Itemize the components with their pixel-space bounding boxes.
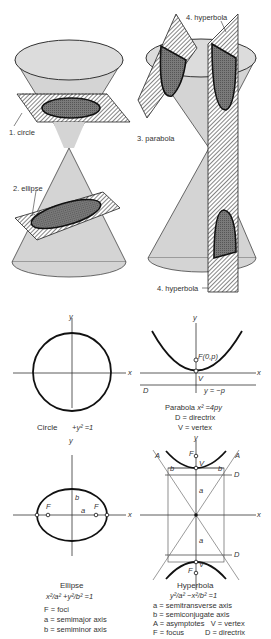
parabola-legend-vertex: V = vertex xyxy=(178,424,212,432)
hyperbola-a-label-bottom: a xyxy=(199,537,203,545)
parabola-axis-y: y xyxy=(193,314,197,322)
parabola-legend-directrix: D = directrix xyxy=(175,414,215,422)
hyperbola-vertex-top: V xyxy=(199,460,204,468)
label-hyperbola-bottom: 4. hyperbola xyxy=(157,285,198,293)
hyperbola-asymptote-label-right: A xyxy=(235,452,240,460)
parabola-axis-x: x xyxy=(257,369,261,377)
ellipse-legend-foci: F = foci xyxy=(44,606,69,614)
hyperbola-axis-y: y xyxy=(194,434,198,442)
label-parabola: 3. parabola xyxy=(137,135,175,143)
ellipse-semi-minor-label: b xyxy=(75,494,79,502)
ellipse-graph xyxy=(13,455,126,556)
hyperbola-legend-semiconjugate: b = semiconjugate axis xyxy=(153,611,230,619)
hyperbola-graph xyxy=(140,440,256,590)
circle-cutting-plane xyxy=(14,94,130,148)
left-double-cone xyxy=(12,40,126,277)
ellipse-legend-semiminor: b = semiminor axis xyxy=(44,626,107,634)
hyperbola-caption-name: Hyperbola xyxy=(177,582,213,590)
conic-sections-diagram xyxy=(0,0,271,639)
circle-caption-name: Circle xyxy=(37,424,57,432)
hyperbola-legend-asymptotes-vertex: A = asymptotes V = vertex xyxy=(153,620,245,628)
parabola-directrix-label: D xyxy=(143,387,148,395)
circle-axis-y: y xyxy=(69,313,73,321)
hyperbola-asymptote-label-left: A xyxy=(155,452,160,460)
hyperbola-directrix-label-bottom: D xyxy=(234,551,239,559)
ellipse-focus-right: F xyxy=(94,503,99,511)
ellipse-focus-left: F xyxy=(46,503,51,511)
hyperbola-focus-top: F xyxy=(189,450,194,458)
hyperbola-legend-focus-directrix: F = focus D = directrix xyxy=(153,629,245,637)
hyperbola-a-label-top: a xyxy=(199,487,203,495)
ellipse-axis-y: y xyxy=(69,437,73,445)
parabola-vertex-label: V xyxy=(198,375,203,383)
hyperbola-b-label-left: b xyxy=(170,465,174,473)
hyperbola-vertex-bottom: V xyxy=(199,561,204,569)
parabola-caption-equation: x² =4py xyxy=(197,403,222,412)
parabola-caption-name: Parabola xyxy=(165,403,195,412)
label-hyperbola-top: 4. hyperbola xyxy=(186,14,227,22)
ellipse-semi-major-label: a xyxy=(81,507,85,515)
hyperbola-axis-x: x xyxy=(257,511,261,519)
ellipse-legend-semimajor: a = semimajor axis xyxy=(44,616,107,624)
hyperbola-focus-bottom: F xyxy=(188,567,193,575)
parabola-caption: Parabola x² =4py xyxy=(165,404,222,412)
circle-caption-equation: +y² =1 xyxy=(72,424,93,432)
circle-axis-x: x xyxy=(128,369,132,377)
ellipse-axis-x: x xyxy=(128,511,132,519)
hyperbola-caption-equation: y²/a² −x²/b² =1 xyxy=(170,592,217,600)
hyperbola-directrix-label-top: D xyxy=(234,471,239,479)
hyperbola-b-label-right: b xyxy=(218,465,222,473)
hyperbola-legend-semitransverse: a = semitransverse axis xyxy=(153,602,232,610)
parabola-focus-label: F(0,p) xyxy=(198,353,218,361)
parabola-directrix-equation: y = −p xyxy=(204,387,225,395)
ellipse-caption-equation: x²/a² +y²/b² =1 xyxy=(46,593,93,601)
label-ellipse: 2. ellipse xyxy=(13,185,43,193)
circle-graph xyxy=(13,318,126,411)
label-circle: 1. circle xyxy=(9,129,35,137)
ellipse-caption-name: Ellipse xyxy=(60,582,84,590)
